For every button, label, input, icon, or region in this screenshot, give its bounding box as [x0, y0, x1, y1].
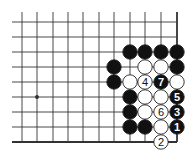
white-stone: [138, 60, 152, 74]
black-stone: [170, 60, 184, 74]
black-stone: [170, 45, 184, 59]
move-number-label: 1: [174, 121, 180, 133]
black-stone: [123, 120, 137, 134]
white-stone: [154, 60, 168, 74]
white-stone: [170, 75, 184, 89]
white-stone: [123, 75, 137, 89]
move-number-label: 3: [174, 106, 180, 118]
black-stone: [123, 105, 137, 119]
black-stone: [107, 60, 121, 74]
white-stone: [154, 90, 168, 104]
black-stone: [107, 75, 121, 89]
move-number-label: 6: [158, 106, 164, 118]
white-stone: [154, 120, 168, 134]
move-number-label: 7: [158, 76, 164, 88]
black-stone: [154, 45, 168, 59]
go-board: 4756312: [0, 0, 194, 160]
black-stone: [123, 45, 137, 59]
star-point: [35, 95, 39, 99]
move-number-label: 2: [158, 136, 164, 148]
move-number-label: 4: [142, 76, 148, 88]
white-stone: [138, 105, 152, 119]
move-number-label: 5: [174, 91, 180, 103]
black-stone: [138, 120, 152, 134]
black-stone: [138, 45, 152, 59]
black-stone: [123, 90, 137, 104]
white-stone: [138, 90, 152, 104]
